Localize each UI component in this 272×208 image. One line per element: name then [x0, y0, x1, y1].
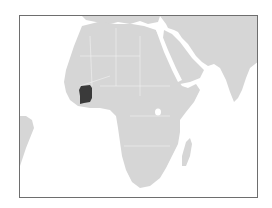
lake-victoria: [155, 109, 161, 116]
map-frame: [19, 15, 258, 198]
landmass-madagascar: [182, 138, 192, 166]
highlight-cote-divoire: [79, 85, 92, 104]
landmass-south-america: [20, 116, 34, 166]
africa-locator-map: [20, 16, 258, 198]
